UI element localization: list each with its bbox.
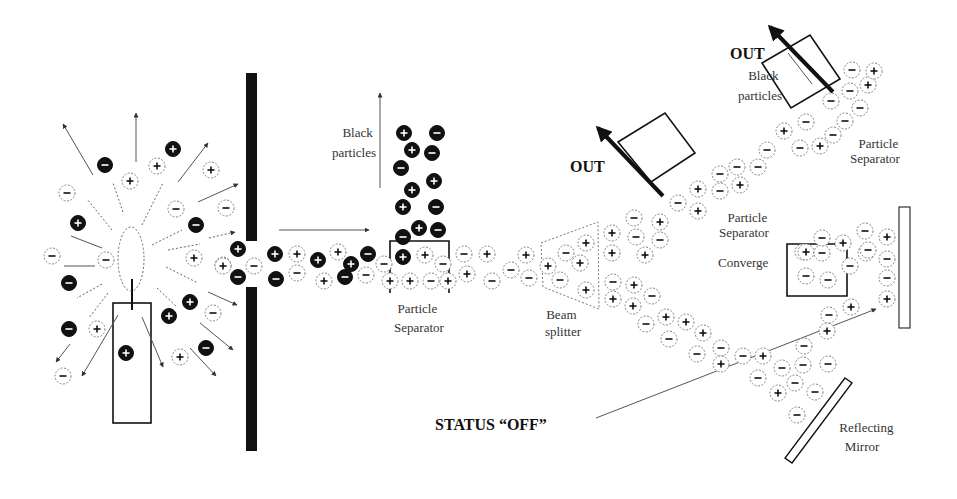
black-negative-particle-icon bbox=[430, 126, 445, 141]
white-negative-particle-icon bbox=[823, 93, 839, 109]
white-positive-particle-icon bbox=[835, 235, 851, 251]
white-negative-particle-icon bbox=[435, 256, 451, 272]
white-negative-particle-icon bbox=[852, 100, 868, 116]
black-negative-particle-icon bbox=[189, 218, 204, 233]
white-negative-particle-icon bbox=[168, 201, 184, 217]
white-positive-particle-icon bbox=[604, 245, 620, 261]
white-negative-particle-icon bbox=[218, 200, 234, 216]
white-negative-particle-icon bbox=[795, 357, 811, 373]
black-positive-particle-icon bbox=[166, 142, 181, 157]
white-negative-particle-icon bbox=[558, 245, 574, 261]
candle-body bbox=[113, 303, 151, 423]
white-negative-particle-icon bbox=[670, 195, 686, 211]
white-positive-particle-icon bbox=[690, 203, 706, 219]
white-positive-particle-icon bbox=[203, 162, 219, 178]
black-positive-particle-icon bbox=[311, 253, 326, 268]
white-negative-particle-icon bbox=[735, 348, 751, 364]
white-negative-particle-icon bbox=[825, 127, 841, 143]
particles-layer bbox=[44, 62, 895, 423]
white-positive-particle-icon bbox=[149, 158, 165, 174]
black-negative-particle-icon bbox=[394, 161, 409, 176]
black-negative-particle-icon bbox=[269, 272, 284, 287]
white-positive-particle-icon bbox=[89, 321, 105, 337]
white-negative-particle-icon bbox=[712, 166, 728, 182]
black-negative-particle-icon bbox=[98, 158, 113, 173]
white-negative-particle-icon bbox=[729, 159, 745, 175]
white-negative-particle-icon bbox=[820, 272, 836, 288]
white-negative-particle-icon bbox=[814, 230, 830, 246]
white-negative-particle-icon bbox=[820, 356, 836, 372]
white-positive-particle-icon bbox=[459, 266, 475, 282]
white-negative-particle-icon bbox=[661, 331, 677, 347]
black-particles-label-2: Black particles bbox=[738, 68, 782, 103]
white-negative-particle-icon bbox=[787, 375, 803, 391]
white-negative-particle-icon bbox=[879, 251, 895, 267]
white-positive-particle-icon bbox=[776, 123, 792, 139]
reflecting-mirror-label: Reflecting Mirror bbox=[839, 420, 896, 454]
black-negative-particle-icon bbox=[231, 270, 246, 285]
white-positive-particle-icon bbox=[626, 277, 642, 293]
white-positive-particle-icon bbox=[604, 225, 620, 241]
barrier-bottom bbox=[246, 287, 257, 451]
white-positive-particle-icon bbox=[843, 299, 859, 315]
black-negative-particle-icon bbox=[361, 247, 376, 262]
white-negative-particle-icon bbox=[626, 210, 642, 226]
white-negative-particle-icon bbox=[750, 159, 766, 175]
white-negative-particle-icon bbox=[484, 273, 500, 289]
black-particles-label-1: Black particles bbox=[332, 125, 376, 160]
white-negative-particle-icon bbox=[821, 307, 837, 323]
black-positive-particle-icon bbox=[231, 242, 246, 257]
white-positive-particle-icon bbox=[417, 247, 433, 263]
white-negative-particle-icon bbox=[879, 270, 895, 286]
black-positive-particle-icon bbox=[162, 309, 177, 324]
white-negative-particle-icon bbox=[456, 246, 472, 262]
black-negative-particle-icon bbox=[62, 322, 77, 337]
white-negative-particle-icon bbox=[289, 265, 305, 281]
white-negative-particle-icon bbox=[628, 229, 644, 245]
black-negative-particle-icon bbox=[429, 200, 444, 215]
black-negative-particle-icon bbox=[396, 230, 411, 245]
white-negative-particle-icon bbox=[98, 252, 114, 268]
barrier-top bbox=[246, 73, 257, 241]
target-plate bbox=[899, 207, 910, 328]
out-box-1 bbox=[598, 113, 695, 196]
white-negative-particle-icon bbox=[789, 407, 805, 423]
white-positive-particle-icon bbox=[215, 258, 231, 274]
white-negative-particle-icon bbox=[750, 370, 766, 386]
particle-separator-label-2: Particle Separator bbox=[850, 136, 901, 166]
white-positive-particle-icon bbox=[798, 244, 814, 260]
black-positive-particle-icon bbox=[268, 247, 283, 262]
white-negative-particle-icon bbox=[844, 62, 860, 78]
white-negative-particle-icon bbox=[842, 258, 858, 274]
white-positive-particle-icon bbox=[770, 385, 786, 401]
out-label-2: OUT bbox=[730, 45, 765, 62]
white-positive-particle-icon bbox=[812, 138, 828, 154]
white-negative-particle-icon bbox=[423, 273, 439, 289]
white-positive-particle-icon bbox=[755, 348, 771, 364]
white-positive-particle-icon bbox=[172, 349, 188, 365]
black-negative-particle-icon bbox=[431, 223, 446, 238]
particle-diagram: Black particles Particle Separator Beam … bbox=[0, 0, 957, 499]
white-negative-particle-icon bbox=[857, 223, 873, 239]
white-positive-particle-icon bbox=[289, 246, 305, 262]
white-negative-particle-icon bbox=[638, 316, 654, 332]
radiating-arrows bbox=[56, 113, 238, 376]
black-negative-particle-icon bbox=[62, 276, 77, 291]
white-positive-particle-icon bbox=[690, 181, 706, 197]
black-positive-particle-icon bbox=[119, 346, 134, 361]
white-negative-particle-icon bbox=[644, 288, 660, 304]
converge-label: Converge bbox=[718, 255, 769, 270]
white-positive-particle-icon bbox=[879, 291, 895, 307]
white-positive-particle-icon bbox=[440, 273, 456, 289]
white-positive-particle-icon bbox=[578, 235, 594, 251]
white-positive-particle-icon bbox=[658, 309, 674, 325]
white-positive-particle-icon bbox=[819, 323, 835, 339]
black-positive-particle-icon bbox=[405, 143, 420, 158]
white-positive-particle-icon bbox=[578, 282, 594, 298]
out-arrow-1 bbox=[598, 128, 663, 196]
black-positive-particle-icon bbox=[396, 200, 411, 215]
black-negative-particle-icon bbox=[199, 341, 214, 356]
white-negative-particle-icon bbox=[860, 242, 876, 258]
white-positive-particle-icon bbox=[637, 247, 653, 263]
white-negative-particle-icon bbox=[712, 183, 728, 199]
